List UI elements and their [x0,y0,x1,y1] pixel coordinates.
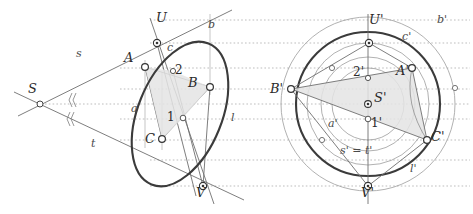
marker-aux-right [452,85,457,90]
label-point-A: A [124,51,133,64]
label-point-U: U [156,11,167,24]
marker-C-prime [424,137,431,144]
marker-2-prime [365,75,370,80]
marker-S [37,101,43,107]
label-point-2: 2 [175,64,183,76]
label-line-l: l [231,112,235,123]
marker-A-prime [409,65,416,72]
label-point-V: V [196,186,205,199]
label-line-b-prime: b' [437,14,447,25]
label-point-A-prime: A' [396,64,409,77]
label-point-U-prime: U' [369,13,384,26]
label-point-1-prime: 1' [371,117,382,129]
label-line-c-prime: c' [402,31,411,42]
line-B-to-V [203,87,210,186]
geometry-figure: S U A B C V 2 1 s t b c a l S' U' A' B' … [0,0,473,214]
label-point-S: S [28,82,37,95]
label-point-2-prime: 2' [353,66,364,78]
label-point-B: B [188,76,198,89]
angle-tick-marks [67,93,76,126]
label-point-V-prime: V' [361,186,374,199]
chord-Vp-Cp [368,140,427,186]
line-t [14,92,244,200]
label-point-1: 1 [167,111,175,123]
label-line-s: s [76,48,82,59]
marker-aux-upper-left [329,65,334,70]
marker-B [207,84,214,91]
label-line-t: t [91,138,95,149]
label-line-c: c [167,42,173,53]
marker-U [153,39,160,46]
label-line-a-prime: a' [328,118,338,129]
marker-U-prime [365,39,372,46]
marker-S-prime [365,101,372,108]
label-line-l-prime: l' [410,163,417,174]
marker-B-prime [288,86,295,93]
shaded-region-left [145,67,210,139]
label-line-s-t-prime: s' = t' [340,145,372,156]
tangent-pencil-left [14,10,244,200]
label-point-B-prime: B' [270,82,283,95]
label-line-a: a [131,103,138,114]
label-point-S-prime: S' [374,91,386,104]
label-line-b: b [208,19,215,30]
marker-A [142,64,149,71]
marker-1 [180,115,186,121]
marker-C [159,136,166,143]
marker-aux-lower-left [319,137,324,142]
marker-1-prime [365,116,371,122]
label-point-C-prime: C' [431,130,445,143]
label-point-C: C [145,132,155,145]
